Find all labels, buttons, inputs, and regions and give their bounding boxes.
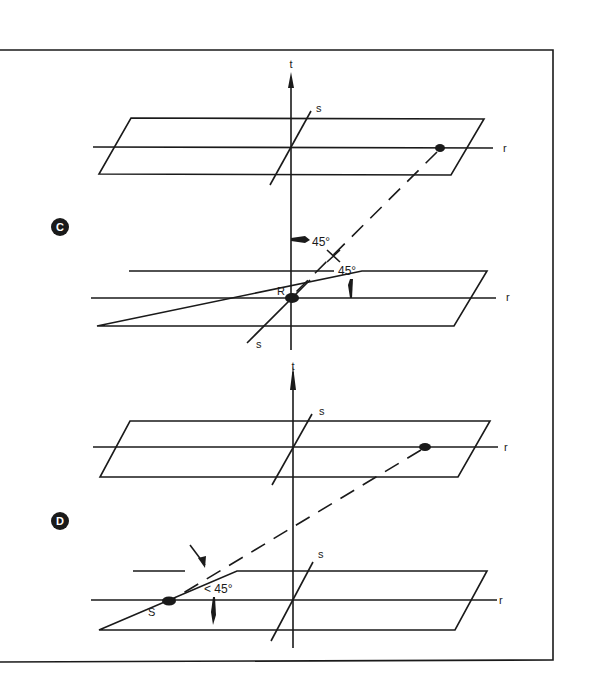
t-axis-arrow-icon [288,72,294,88]
t-axis-label-d: t [291,360,294,372]
r-label-upper-d: r [504,441,508,453]
svg-text:C: C [56,221,64,233]
s-axis-upper-d [272,414,312,485]
upper-plane-d [100,421,490,477]
point-label-r: R [277,285,285,297]
panel-d: D t r s < 45° r s S [51,360,508,648]
intersection-mark-icon [327,250,340,262]
worldline-45deg [291,152,437,297]
panel-c-badge: C [51,218,69,236]
angle-arrow-up-icon-d [211,597,216,625]
panel-d-badge: D [51,512,69,530]
r-axis-upper-c [93,147,493,148]
event-point-upper-c [435,144,445,152]
angle-arrow-down-icon [198,556,206,568]
angle-arrow-icon [291,236,310,243]
event-point-s [162,597,176,606]
s-label-upper-d: s [319,405,325,417]
s-label-lower-d: s [318,548,324,560]
worldline-less-than-45deg [170,450,421,601]
t-axis-label: t [289,58,292,70]
angle-label-vertical: 45° [312,235,330,249]
spacetime-diagram: C t r s 45° 45° r s R D [0,0,591,700]
panel-c: C t r s 45° 45° r s R [51,58,510,350]
r-label-upper-c: r [503,142,507,154]
r-label-lower-c: r [506,291,510,303]
s-axis-lower-d [271,562,313,641]
s-label-lower-c: s [256,338,262,350]
angle-arrow-up-icon [348,279,353,298]
point-label-s: S [148,606,155,618]
s-label-upper-c: s [316,102,322,114]
event-point-r [285,293,299,303]
r-label-lower-d: r [499,594,503,606]
svg-text:D: D [56,515,64,527]
